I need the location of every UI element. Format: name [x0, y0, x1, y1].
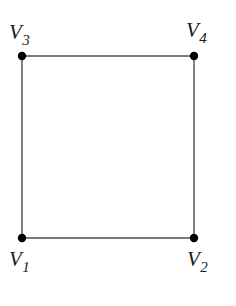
vertex-label-v4-base: V — [186, 18, 199, 42]
graph-figure: V3 V4 V1 V2 — [0, 0, 236, 306]
vertex-label-v2: V2 — [187, 249, 208, 275]
vertex-v4 — [190, 52, 198, 60]
vertex-label-v2-base: V — [187, 247, 200, 271]
vertex-label-v2-subscript: 2 — [200, 259, 208, 275]
vertex-label-v1-base: V — [9, 247, 22, 271]
vertex-v2 — [190, 234, 198, 242]
vertex-label-v4-subscript: 4 — [199, 30, 207, 46]
vertex-label-v3-subscript: 3 — [22, 32, 30, 48]
vertex-label-v3: V3 — [9, 22, 30, 48]
vertex-label-v1-subscript: 1 — [22, 259, 30, 275]
vertex-v1 — [18, 234, 26, 242]
vertex-v3 — [18, 52, 26, 60]
vertex-label-v3-base: V — [9, 20, 22, 44]
vertex-label-v1: V1 — [9, 249, 30, 275]
vertex-label-v4: V4 — [186, 20, 207, 46]
